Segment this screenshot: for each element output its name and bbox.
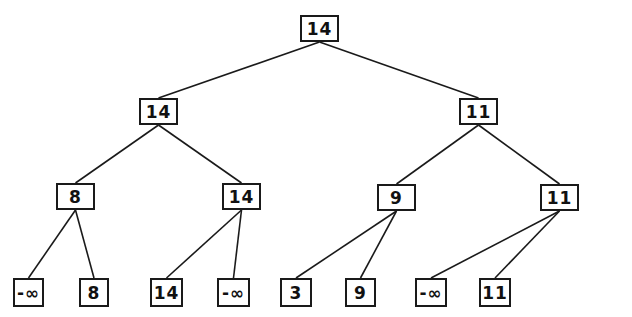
tree-edge	[397, 125, 479, 184]
tree-node-leaf5: 3	[280, 278, 312, 307]
tree-node-leaf8: 11	[479, 278, 511, 307]
tree-node-l2c: 9	[377, 184, 416, 211]
tree-edge	[234, 210, 242, 278]
tree-edge	[320, 42, 479, 98]
tree-node-l1b: 11	[459, 98, 498, 125]
tree-edge	[296, 211, 397, 278]
tree-node-l2b: 14	[222, 183, 261, 210]
tree-edge	[479, 125, 560, 184]
tree-node-l2a: 8	[56, 183, 95, 210]
tree-edge	[29, 210, 76, 278]
tree-edge	[76, 125, 159, 183]
tree-node-leaf6: 9	[345, 278, 376, 307]
tree-edge	[159, 125, 242, 183]
tree-node-leaf1: -∞	[13, 278, 44, 307]
tree-node-l2d: 11	[540, 184, 579, 211]
tree-node-leaf3: 14	[150, 278, 183, 307]
tree-node-leaf2: 8	[79, 278, 109, 307]
tree-node-l1a: 14	[139, 98, 178, 125]
tree-edge	[76, 210, 95, 278]
tree-edge	[159, 42, 320, 98]
tree-edge	[361, 211, 397, 278]
tree-edge	[495, 211, 560, 278]
tree-node-leaf4: -∞	[217, 278, 250, 307]
tree-edge	[431, 211, 560, 278]
tree-node-root: 14	[300, 15, 339, 42]
tree-node-leaf7: -∞	[415, 278, 447, 307]
tree-edge	[167, 210, 242, 278]
tree-edges	[0, 0, 632, 317]
